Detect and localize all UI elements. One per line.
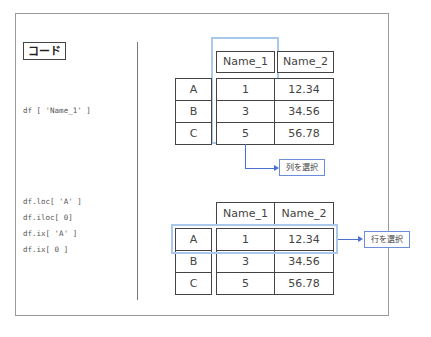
- column-select-code: df [ 'Name_1' ]: [23, 106, 91, 115]
- index-cell: C: [175, 122, 212, 145]
- code-label: コード: [23, 42, 66, 60]
- row-select-code: df.ix[ 'A' ]: [23, 229, 77, 238]
- data-cell: 12.34: [274, 78, 334, 101]
- data-cell: 3: [216, 100, 275, 123]
- column-header: Name_2: [277, 51, 334, 73]
- row-highlight: [171, 224, 338, 254]
- data-cell: 5: [216, 272, 275, 295]
- column-header: Name_2: [274, 202, 334, 225]
- arrow-line: [245, 168, 274, 169]
- row-select-code: df.loc[ 'A' ]: [23, 197, 82, 206]
- column-header: Name_1: [216, 51, 275, 73]
- row-select-code: df.iloc[ 0]: [23, 213, 73, 222]
- arrow-line: [245, 144, 246, 169]
- data-cell: 34.56: [274, 100, 334, 123]
- index-cell: B: [175, 100, 212, 123]
- column-header: Name_1: [216, 202, 275, 225]
- data-cell: 1: [216, 78, 275, 101]
- arrow-line: [338, 239, 358, 240]
- data-cell: 56.78: [274, 272, 334, 295]
- divider: [137, 42, 138, 300]
- row-select-annotation: 行を選択: [364, 231, 410, 248]
- index-cell: C: [175, 272, 212, 295]
- index-cell: A: [175, 78, 212, 101]
- arrow-head-icon: [358, 236, 363, 242]
- data-cell: 5: [216, 122, 275, 145]
- column-select-annotation: 列を選択: [279, 159, 325, 176]
- row-select-code: df.ix[ 0 ]: [23, 245, 68, 254]
- data-cell: 56.78: [274, 122, 334, 145]
